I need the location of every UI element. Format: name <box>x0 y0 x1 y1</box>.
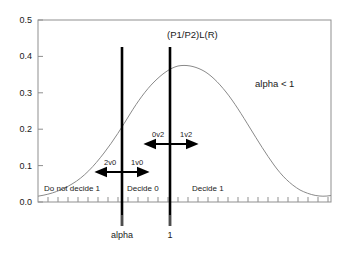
arrow-label-1v0: 1v0 <box>131 159 143 167</box>
region-label-decide-0: Decide 0 <box>127 185 159 193</box>
y-tick-label-3: 0.2 <box>6 125 32 134</box>
curve-title: (P1/P2)L(R) <box>167 30 218 40</box>
plot-frame <box>38 20 331 202</box>
figure-container: 0.5 0.4 0.3 0.2 0.1 0.0 alpha 1 (P1/P2)L… <box>0 0 352 253</box>
arrow-label-0v2: 0v2 <box>152 131 164 139</box>
y-tick-label-4: 0.1 <box>6 162 32 171</box>
arrow-label-2v0: 2v0 <box>104 159 116 167</box>
y-tick-label-0: 0.5 <box>6 16 32 25</box>
x-axis-ticks <box>48 197 328 202</box>
arrow-label-1v2: 1v2 <box>180 131 192 139</box>
region-label-do-not-decide-1: Do not decide 1 <box>44 185 100 193</box>
y-axis-ticks <box>38 20 43 202</box>
alpha-less-than-one-note: alpha < 1 <box>255 79 294 89</box>
x-tick-label-one: 1 <box>150 231 190 240</box>
x-label-stubs <box>122 215 170 226</box>
y-tick-label-2: 0.3 <box>6 89 32 98</box>
y-tick-label-5: 0.0 <box>6 198 32 207</box>
y-tick-label-1: 0.4 <box>6 52 32 61</box>
x-tick-label-alpha: alpha <box>102 231 142 240</box>
region-label-decide-1: Decide 1 <box>192 185 224 193</box>
